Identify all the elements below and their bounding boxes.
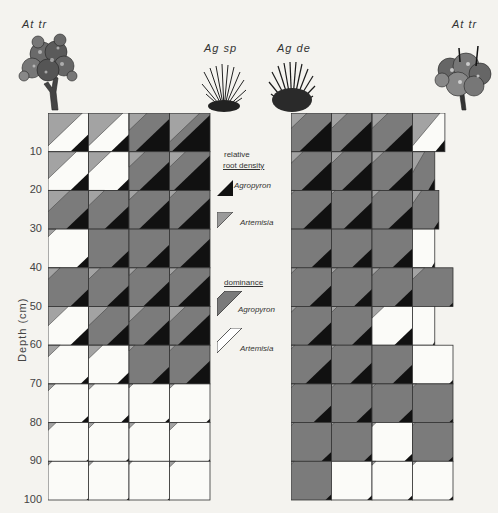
legend: relative root density Agropyron Artemisi…: [216, 150, 286, 380]
grid-cell: [129, 268, 170, 307]
grid-cell: [48, 345, 89, 384]
grid-cell: [372, 152, 413, 191]
grid-cell: [89, 190, 130, 229]
legend-artemisia-density-swatch: [217, 212, 233, 228]
grid-cell: [372, 423, 413, 462]
grid-cell: [129, 152, 170, 191]
grid-cell: [170, 423, 211, 462]
grid-cell: [372, 113, 413, 152]
grid-cell: [89, 113, 130, 152]
grid-cell: [372, 268, 413, 307]
shrub-icon-left: [12, 32, 80, 112]
y-tick-20: 20: [18, 183, 42, 195]
grid-cell: [170, 384, 211, 423]
grid-cell: [413, 190, 439, 229]
legend-agropyron-density-label: Agropyron: [234, 181, 271, 190]
legend-artemisia-dominance-label: Artemisia: [240, 344, 273, 353]
grid-cell: [372, 307, 413, 346]
grid-cell: [332, 268, 373, 307]
grid-cell: [332, 152, 373, 191]
species-label-ag-sp: Ag sp: [204, 42, 237, 54]
species-label-at-tr-left: At tr: [22, 18, 47, 30]
grid-cell: [48, 307, 89, 346]
grid-cell: [291, 423, 332, 462]
y-tick-90: 90: [18, 454, 42, 466]
grid-cell: [332, 423, 373, 462]
y-tick-100: 100: [18, 493, 42, 505]
grid-cell: [170, 113, 211, 152]
grid-cell: [48, 268, 89, 307]
grid-cell: [291, 229, 332, 268]
grid-cell: [48, 229, 89, 268]
grid-cell: [372, 461, 413, 500]
grid-cell: [413, 345, 454, 384]
y-tick-60: 60: [18, 338, 42, 350]
grid-cell: [89, 307, 130, 346]
legend-dominance-title: dominance: [224, 278, 263, 287]
grid-cell: [413, 384, 454, 423]
grid-cell: [332, 190, 373, 229]
grid-cell: [291, 190, 332, 229]
grid-cell: [170, 268, 211, 307]
grid-cell: [372, 345, 413, 384]
grid-cell: [48, 461, 89, 500]
grid-cell: [170, 152, 211, 191]
grid-cell: [129, 190, 170, 229]
grid-cell: [372, 190, 413, 229]
grid-cell: [129, 384, 170, 423]
grid-cell: [332, 461, 373, 500]
legend-root-density-title-line2: root density: [223, 161, 264, 170]
grid-cell: [332, 113, 373, 152]
grid-cell: [48, 113, 89, 152]
y-tick-10: 10: [18, 145, 42, 157]
grid-cell: [413, 268, 454, 307]
grid-cell: [291, 307, 332, 346]
grid-cell: [48, 152, 89, 191]
grid-cell: [291, 345, 332, 384]
grid-cell: [332, 307, 373, 346]
grid-cell: [89, 345, 130, 384]
grid-cell: [291, 384, 332, 423]
grid-cell: [291, 113, 332, 152]
legend-agropyron-dominance-label: Agropyron: [238, 305, 275, 314]
y-tick-50: 50: [18, 300, 42, 312]
grid-cell: [413, 113, 445, 152]
grid-cell: [129, 307, 170, 346]
grid-cell: [413, 461, 454, 500]
y-tick-80: 80: [18, 416, 42, 428]
grass-icon-ag-sp: [200, 62, 248, 112]
legend-agropyron-density-swatch: [217, 180, 233, 196]
grid-cell: [170, 461, 211, 500]
right-grid-ag-de: [291, 113, 454, 501]
grid-cell: [413, 423, 454, 462]
grid-cell: [89, 229, 130, 268]
shrub-icon-right: [430, 44, 496, 112]
grid-cell: [89, 461, 130, 500]
y-tick-70: 70: [18, 377, 42, 389]
grid-cell: [291, 461, 332, 500]
grid-cell: [89, 384, 130, 423]
legend-artemisia-density-label: Artemisia: [240, 218, 273, 227]
grid-cell: [291, 152, 332, 191]
grid-cell: [129, 229, 170, 268]
grid-cell: [129, 461, 170, 500]
grid-cell: [48, 423, 89, 462]
grid-cell: [413, 307, 435, 346]
y-tick-30: 30: [18, 222, 42, 234]
grid-cell: [413, 229, 435, 268]
grid-cell: [372, 229, 413, 268]
grid-cell: [170, 307, 211, 346]
grid-cell: [89, 268, 130, 307]
y-tick-40: 40: [18, 261, 42, 273]
grid-cell: [170, 229, 211, 268]
grid-cell: [89, 152, 130, 191]
grid-cell: [372, 384, 413, 423]
grid-cell: [89, 423, 130, 462]
left-grid-ag-sp: [48, 113, 211, 501]
grid-cell: [48, 190, 89, 229]
grid-cell: [170, 190, 211, 229]
grid-cell: [413, 152, 435, 191]
species-label-at-tr-right: At tr: [452, 18, 477, 30]
legend-root-density-title-line1: relative: [224, 150, 250, 159]
grid-cell: [332, 345, 373, 384]
